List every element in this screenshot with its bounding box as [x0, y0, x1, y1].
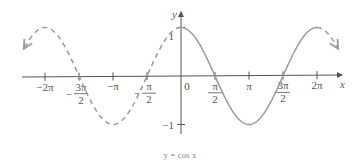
- x-tick-label: −π: [107, 80, 119, 92]
- fraction-sign: −: [66, 88, 72, 100]
- x-tick-label: 2π: [311, 79, 323, 91]
- fraction-denominator: 2: [280, 92, 286, 104]
- cosine-curve-dashed: [317, 28, 337, 48]
- x-tick-label: 0: [184, 80, 190, 92]
- fraction-denominator: 2: [212, 93, 218, 105]
- fraction-numerator: π: [146, 80, 152, 92]
- cosine-chart: x y −2π3π2−−ππ2−0π2π3π22π1−1 y = cos x: [0, 0, 360, 166]
- x-axis-label: x: [339, 78, 345, 90]
- fraction-denominator: 2: [146, 93, 152, 105]
- ticks: −2π3π2−−ππ2−0π2π3π22π1−1: [36, 28, 323, 131]
- fraction-denominator: 2: [78, 94, 84, 106]
- fraction-numerator: 3π: [75, 81, 87, 93]
- axes: x y: [22, 8, 345, 134]
- x-tick-fraction-label: π2: [208, 80, 222, 105]
- x-axis: [22, 75, 342, 77]
- y-tick-label: −1: [162, 119, 174, 131]
- x-tick-label: π: [246, 80, 252, 92]
- y-axis-label: y: [171, 8, 177, 20]
- chart-caption: y = cos x: [164, 150, 197, 160]
- x-tick-fraction-label: 3π2: [276, 79, 290, 104]
- y-tick-label: 1: [169, 30, 175, 42]
- x-tick-fraction-label: 3π2−: [66, 81, 88, 106]
- x-tick-fraction-label: π2−: [134, 80, 156, 105]
- x-tick-label: −2π: [36, 81, 54, 93]
